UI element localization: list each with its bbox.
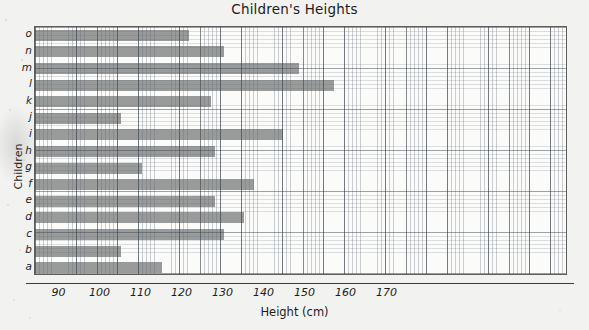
bar-a [35, 262, 162, 273]
bar-row [35, 246, 567, 257]
x-tick-label-150: 150 [285, 286, 325, 299]
y-tick-label-d: d [4, 210, 32, 222]
y-tick-label-n: n [4, 44, 32, 56]
bar-row [35, 163, 567, 174]
x-tick-label-160: 160 [326, 286, 366, 299]
y-tick-label-o: o [4, 27, 32, 39]
bar-b [35, 246, 121, 257]
bar-c [35, 229, 224, 240]
chart-title: Children's Heights [0, 1, 589, 17]
y-tick-label-j: j [4, 110, 32, 122]
bar-l [35, 80, 334, 91]
y-tick-label-m: m [4, 61, 32, 73]
bar-n [35, 46, 224, 57]
bar-row [35, 212, 567, 223]
bar-row [35, 80, 567, 91]
x-tick-label-110: 110 [121, 286, 161, 299]
bar-row [35, 196, 567, 207]
bar-row [35, 129, 567, 140]
x-axis-line [26, 283, 574, 284]
bar-m [35, 63, 299, 74]
plot-area [34, 26, 567, 275]
x-tick-label-90: 90 [39, 286, 79, 299]
x-axis-title: Height (cm) [0, 305, 589, 319]
bar-j [35, 113, 121, 124]
x-tick-label-120: 120 [162, 286, 202, 299]
x-tick-label-130: 130 [203, 286, 243, 299]
bar-row [35, 30, 567, 41]
bar-row [35, 262, 567, 273]
y-tick-label-a: a [4, 260, 32, 272]
bar-row [35, 46, 567, 57]
bar-row [35, 63, 567, 74]
bar-row [35, 113, 567, 124]
x-tick-label-100: 100 [80, 286, 120, 299]
bar-f [35, 179, 254, 190]
y-tick-label-b: b [4, 243, 32, 255]
bar-row [35, 146, 567, 157]
y-tick-label-l: l [4, 77, 32, 89]
x-tick-label-140: 140 [244, 286, 284, 299]
y-tick-label-k: k [4, 94, 32, 106]
bar-h [35, 146, 215, 157]
x-tick-label-170: 170 [367, 286, 407, 299]
bar-k [35, 96, 211, 107]
x-axis-tick-labels: 90100110120130140150160170 [0, 286, 589, 304]
bar-row [35, 179, 567, 190]
bar-e [35, 196, 215, 207]
bar-row [35, 229, 567, 240]
y-tick-label-c: c [4, 227, 32, 239]
bar-d [35, 212, 244, 223]
y-axis-title: Children [12, 127, 25, 207]
bar-o [35, 30, 189, 41]
bar-row [35, 96, 567, 107]
bar-g [35, 163, 142, 174]
bar-i [35, 129, 283, 140]
